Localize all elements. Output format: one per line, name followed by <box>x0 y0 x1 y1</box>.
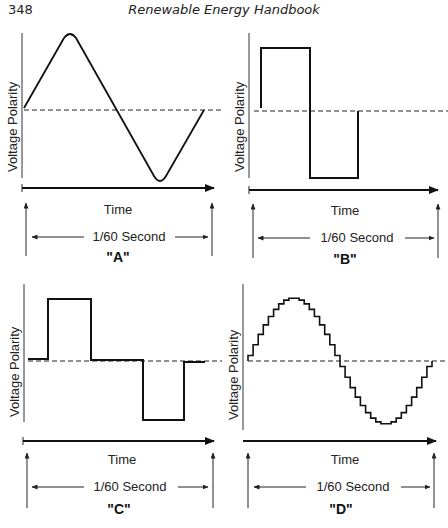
period-label: 1/60 Second <box>316 479 389 494</box>
y-axis-label: Voltage Polarity <box>5 81 20 172</box>
panel-caption: "D" <box>329 501 352 517</box>
panel-a: Voltage Polarity Time 1/60 Second "A" <box>5 33 222 265</box>
panel-caption: "B" <box>333 251 356 267</box>
period-label: 1/60 Second <box>320 230 393 245</box>
panel-caption: "C" <box>107 501 130 517</box>
waveform-figure: Voltage Polarity Time 1/60 Second "A" Vo… <box>0 0 448 528</box>
y-axis-label: Voltage Polarity <box>232 81 247 172</box>
panel-caption: "A" <box>106 249 129 265</box>
x-axis-label: Time <box>331 452 359 467</box>
y-axis-label: Voltage Polarity <box>7 326 22 417</box>
panel-c: Voltage Polarity Time 1/60 Second "C" <box>7 284 222 517</box>
x-axis-label: Time <box>104 202 132 217</box>
panel-b: Voltage Polarity Time 1/60 Second "B" <box>232 33 448 267</box>
modified-square-wave <box>28 299 205 420</box>
period-label: 1/60 Second <box>93 479 166 494</box>
square-wave <box>261 48 358 178</box>
sine-wave <box>24 34 204 181</box>
y-axis-label: Voltage Polarity <box>226 329 241 420</box>
panel-d: Voltage Polarity Time 1/60 Second "D" <box>226 284 448 517</box>
x-axis-label: Time <box>108 452 136 467</box>
period-label: 1/60 Second <box>92 229 165 244</box>
x-axis-label: Time <box>331 203 359 218</box>
